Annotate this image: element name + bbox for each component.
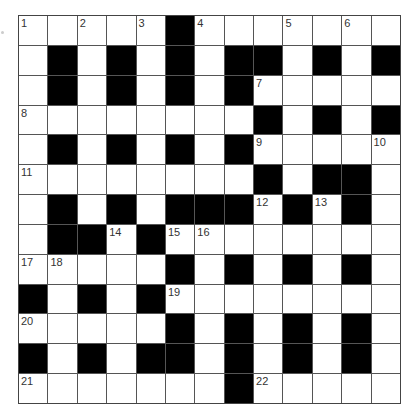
answer-cell[interactable] <box>78 165 106 194</box>
answer-cell[interactable] <box>48 285 76 314</box>
answer-cell[interactable] <box>254 285 282 314</box>
answer-cell[interactable]: 4 <box>195 16 223 45</box>
answer-cell[interactable] <box>195 165 223 194</box>
answer-cell[interactable] <box>342 76 370 105</box>
answer-cell[interactable] <box>372 165 400 194</box>
answer-cell[interactable] <box>313 314 341 343</box>
answer-cell[interactable] <box>342 374 370 403</box>
answer-cell[interactable] <box>78 195 106 224</box>
answer-cell[interactable] <box>313 285 341 314</box>
answer-cell[interactable] <box>372 16 400 45</box>
answer-cell[interactable]: 13 <box>313 195 341 224</box>
answer-cell[interactable] <box>342 135 370 164</box>
answer-cell[interactable] <box>48 374 76 403</box>
answer-cell[interactable] <box>342 46 370 75</box>
answer-cell[interactable]: 19 <box>166 285 194 314</box>
answer-cell[interactable] <box>372 344 400 373</box>
answer-cell[interactable] <box>78 46 106 75</box>
answer-cell[interactable] <box>166 374 194 403</box>
answer-cell[interactable] <box>107 344 135 373</box>
answer-cell[interactable] <box>107 285 135 314</box>
answer-cell[interactable] <box>78 135 106 164</box>
answer-cell[interactable] <box>254 314 282 343</box>
answer-cell[interactable] <box>137 314 165 343</box>
answer-cell[interactable] <box>195 46 223 75</box>
answer-cell[interactable] <box>107 106 135 135</box>
answer-cell[interactable]: 18 <box>48 255 76 284</box>
answer-cell[interactable] <box>19 195 47 224</box>
answer-cell[interactable] <box>195 374 223 403</box>
answer-cell[interactable] <box>283 46 311 75</box>
answer-cell[interactable] <box>195 255 223 284</box>
answer-cell[interactable] <box>48 314 76 343</box>
answer-cell[interactable]: 20 <box>19 314 47 343</box>
answer-cell[interactable]: 21 <box>19 374 47 403</box>
answer-cell[interactable] <box>137 106 165 135</box>
answer-cell[interactable] <box>48 165 76 194</box>
answer-cell[interactable] <box>372 285 400 314</box>
answer-cell[interactable] <box>313 255 341 284</box>
answer-cell[interactable] <box>166 165 194 194</box>
answer-cell[interactable] <box>19 135 47 164</box>
answer-cell[interactable] <box>107 255 135 284</box>
answer-cell[interactable] <box>137 165 165 194</box>
answer-cell[interactable] <box>19 46 47 75</box>
answer-cell[interactable] <box>137 135 165 164</box>
answer-cell[interactable] <box>137 46 165 75</box>
answer-cell[interactable] <box>254 225 282 254</box>
answer-cell[interactable] <box>107 374 135 403</box>
answer-cell[interactable] <box>313 374 341 403</box>
answer-cell[interactable] <box>283 135 311 164</box>
answer-cell[interactable]: 22 <box>254 374 282 403</box>
answer-cell[interactable] <box>19 76 47 105</box>
answer-cell[interactable] <box>372 76 400 105</box>
answer-cell[interactable] <box>254 344 282 373</box>
answer-cell[interactable] <box>78 314 106 343</box>
answer-cell[interactable] <box>342 225 370 254</box>
answer-cell[interactable] <box>78 255 106 284</box>
answer-cell[interactable]: 14 <box>107 225 135 254</box>
answer-cell[interactable] <box>372 374 400 403</box>
answer-cell[interactable] <box>137 374 165 403</box>
answer-cell[interactable] <box>372 195 400 224</box>
answer-cell[interactable] <box>137 76 165 105</box>
answer-cell[interactable]: 3 <box>137 16 165 45</box>
answer-cell[interactable] <box>254 255 282 284</box>
answer-cell[interactable] <box>313 76 341 105</box>
answer-cell[interactable] <box>78 106 106 135</box>
answer-cell[interactable]: 17 <box>19 255 47 284</box>
answer-cell[interactable] <box>342 106 370 135</box>
answer-cell[interactable] <box>283 165 311 194</box>
answer-cell[interactable] <box>19 225 47 254</box>
answer-cell[interactable] <box>283 225 311 254</box>
answer-cell[interactable] <box>225 285 253 314</box>
answer-cell[interactable] <box>107 314 135 343</box>
answer-cell[interactable]: 6 <box>342 16 370 45</box>
answer-cell[interactable]: 15 <box>166 225 194 254</box>
answer-cell[interactable] <box>78 374 106 403</box>
answer-cell[interactable] <box>313 16 341 45</box>
answer-cell[interactable]: 11 <box>19 165 47 194</box>
answer-cell[interactable] <box>225 165 253 194</box>
answer-cell[interactable] <box>313 135 341 164</box>
answer-cell[interactable] <box>225 225 253 254</box>
answer-cell[interactable] <box>48 16 76 45</box>
answer-cell[interactable] <box>195 344 223 373</box>
answer-cell[interactable] <box>195 314 223 343</box>
answer-cell[interactable] <box>225 106 253 135</box>
answer-cell[interactable] <box>372 255 400 284</box>
answer-cell[interactable] <box>107 16 135 45</box>
answer-cell[interactable]: 8 <box>19 106 47 135</box>
answer-cell[interactable] <box>342 285 370 314</box>
answer-cell[interactable] <box>225 16 253 45</box>
answer-cell[interactable] <box>166 106 194 135</box>
answer-cell[interactable]: 7 <box>254 76 282 105</box>
answer-cell[interactable]: 16 <box>195 225 223 254</box>
answer-cell[interactable] <box>137 195 165 224</box>
answer-cell[interactable]: 10 <box>372 135 400 164</box>
answer-cell[interactable] <box>313 225 341 254</box>
answer-cell[interactable] <box>195 285 223 314</box>
answer-cell[interactable] <box>372 314 400 343</box>
answer-cell[interactable]: 2 <box>78 16 106 45</box>
answer-cell[interactable]: 12 <box>254 195 282 224</box>
